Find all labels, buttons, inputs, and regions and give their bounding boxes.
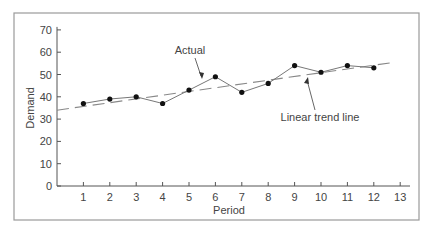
data-point-marker — [239, 90, 244, 95]
x-tick-label: 2 — [107, 191, 113, 203]
annotation-trend-label: Linear trend line — [281, 111, 360, 123]
x-tick-label: 13 — [394, 191, 406, 203]
data-point-marker — [134, 94, 139, 99]
data-point-marker — [81, 101, 86, 106]
y-tick-label: 40 — [40, 91, 52, 103]
y-tick-label: 0 — [46, 180, 52, 192]
y-tick-label: 20 — [40, 135, 52, 147]
data-point-marker — [318, 70, 323, 75]
x-tick-label: 5 — [186, 191, 192, 203]
data-point-marker — [213, 74, 218, 79]
data-point-marker — [292, 63, 297, 68]
line-chart: 010203040506070 12345678910111213 Actual… — [0, 0, 429, 233]
x-tick-label: 12 — [368, 191, 380, 203]
x-tick-label: 7 — [239, 191, 245, 203]
x-axis-label: Period — [213, 204, 245, 216]
y-tick-label: 70 — [40, 24, 52, 36]
y-axis-label: Demand — [24, 87, 36, 129]
x-tick-label: 10 — [315, 191, 327, 203]
y-tick-label: 30 — [40, 113, 52, 125]
data-point-marker — [371, 65, 376, 70]
data-point-marker — [186, 88, 191, 93]
data-point-marker — [160, 101, 165, 106]
data-point-marker — [266, 81, 271, 86]
x-tick-label: 9 — [292, 191, 298, 203]
y-tick-label: 10 — [40, 158, 52, 170]
x-tick-label: 3 — [133, 191, 139, 203]
y-tick-label: 50 — [40, 69, 52, 81]
x-tick-label: 11 — [342, 191, 353, 203]
x-tick-label: 6 — [212, 191, 218, 203]
x-tick-label: 1 — [80, 191, 86, 203]
chart-container: 010203040506070 12345678910111213 Actual… — [0, 0, 429, 233]
y-tick-label: 60 — [40, 46, 52, 58]
annotation-actual-label: Actual — [175, 44, 206, 56]
data-point-marker — [345, 63, 350, 68]
data-point-marker — [107, 96, 112, 101]
x-tick-label: 4 — [160, 191, 166, 203]
x-tick-label: 8 — [265, 191, 271, 203]
